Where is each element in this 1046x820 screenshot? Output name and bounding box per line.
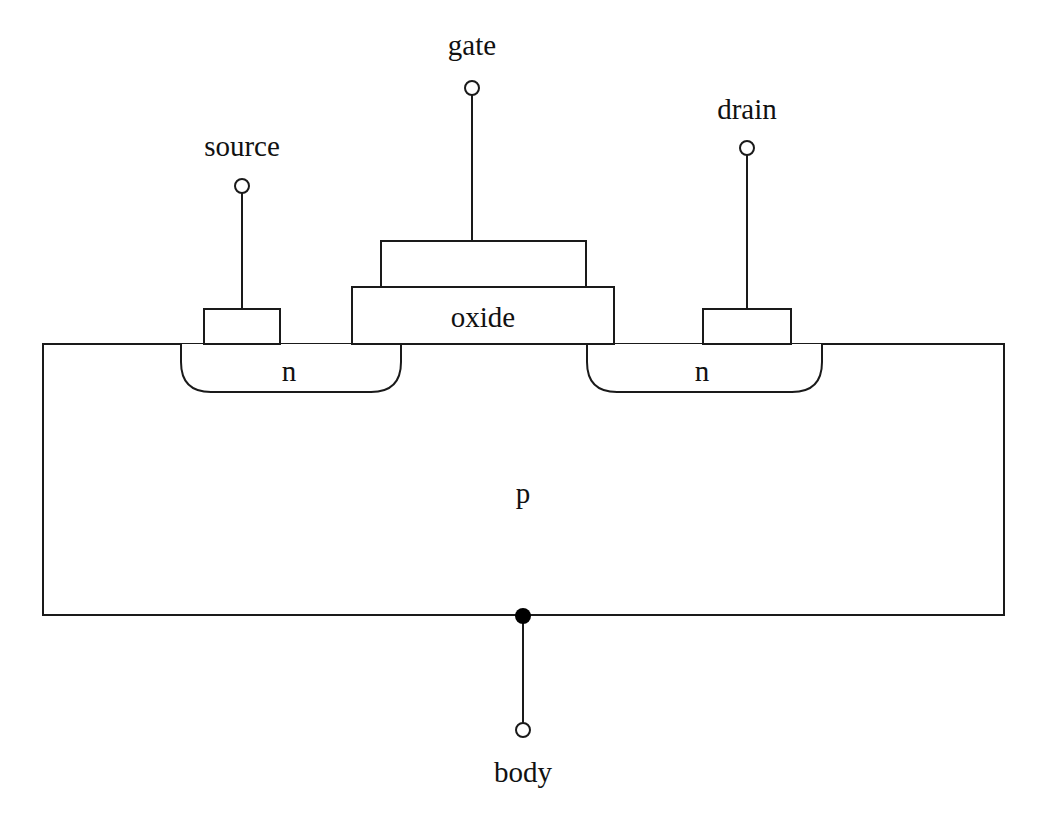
substrate-p-label: p [516,477,531,509]
drain-n-label: n [695,355,710,387]
drain-terminal-icon [740,141,754,155]
drain-contact [703,309,791,344]
drain-label: drain [717,93,777,125]
mosfet-diagram: source gate drain oxide n n p body [0,0,1046,820]
gate-label: gate [448,29,496,61]
source-label: source [204,130,280,162]
source-terminal-icon [235,179,249,193]
source-n-label: n [282,355,297,387]
oxide-label: oxide [451,301,515,333]
source-contact [204,309,280,344]
body-label: body [494,756,553,788]
gate-electrode [381,241,586,287]
body-junction-dot-icon [515,608,531,624]
body-terminal-icon [516,723,530,737]
gate-terminal-icon [465,81,479,95]
